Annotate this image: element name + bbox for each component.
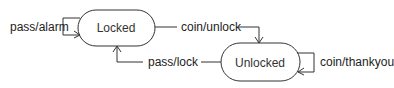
transition-pass-lock-label: pass/lock	[148, 55, 199, 69]
state-locked-label: Locked	[97, 21, 136, 35]
state-diagram: Locked Unlocked pass/alarm coin/unlock p…	[0, 0, 394, 88]
state-unlocked: Unlocked	[221, 43, 300, 81]
transition-coin-unlock-label: coin/unlock	[181, 20, 242, 34]
transition-coin-unlock: coin/unlock	[155, 20, 263, 43]
transition-pass-alarm: pass/alarm	[10, 18, 80, 38]
transition-coin-thankyou: coin/thankyou	[297, 53, 394, 75]
transition-pass-lock: pass/lock	[113, 46, 221, 69]
transition-pass-alarm-label: pass/alarm	[10, 20, 69, 34]
state-locked: Locked	[78, 10, 155, 46]
state-unlocked-label: Unlocked	[235, 56, 285, 70]
transition-coin-thankyou-label: coin/thankyou	[320, 55, 394, 69]
